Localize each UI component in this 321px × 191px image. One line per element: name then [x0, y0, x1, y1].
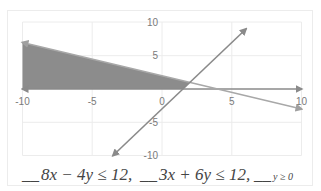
- svg-text:0: 0: [159, 96, 165, 107]
- blank-1: __: [21, 165, 40, 184]
- inequality-graph: -10 -5 0 5 10 10 5 -5 -10 __ 8x − 4y ≤ 1…: [0, 0, 321, 191]
- svg-text:10: 10: [147, 17, 159, 28]
- svg-text:10: 10: [296, 96, 308, 107]
- svg-text:3x + 6y ≤ 12,: 3x + 6y ≤ 12,: [158, 165, 250, 184]
- shaded-region: [23, 43, 191, 90]
- svg-text:-5: -5: [149, 117, 158, 128]
- svg-text:8x − 4y ≤ 12,: 8x − 4y ≤ 12,: [41, 165, 132, 184]
- svg-text:-5: -5: [88, 96, 97, 107]
- inequality-caption: __ 8x − 4y ≤ 12, __ 3x + 6y ≤ 12, __ y ≥…: [21, 165, 293, 184]
- blank-3: __: [253, 165, 272, 184]
- svg-text:5: 5: [152, 50, 158, 61]
- x-tick-labels: -10 -5 0 5 10: [15, 96, 307, 107]
- line-8x-minus-4y-equals-12: [113, 29, 246, 156]
- svg-text:-10: -10: [15, 96, 30, 107]
- svg-text:5: 5: [229, 96, 235, 107]
- blank-2: __: [139, 165, 158, 184]
- svg-text:y ≥ 0: y ≥ 0: [272, 171, 293, 182]
- svg-text:-10: -10: [144, 150, 159, 161]
